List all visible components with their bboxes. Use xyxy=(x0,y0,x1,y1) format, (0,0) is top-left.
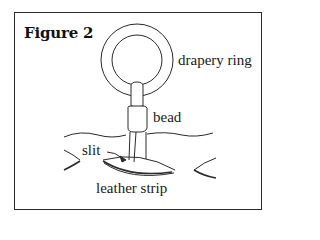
drape-top-line-right xyxy=(147,133,213,136)
ring-band xyxy=(131,82,143,107)
drapery-ring-inner xyxy=(112,35,162,85)
label-drapery-ring: drapery ring xyxy=(178,52,252,69)
bead xyxy=(128,106,147,132)
label-leather-strip: leather strip xyxy=(96,180,167,197)
label-slit: slit xyxy=(82,142,100,159)
drape-top-line xyxy=(64,133,126,137)
left-chevron-bottom xyxy=(64,161,80,170)
leather-strip-bottom xyxy=(103,161,172,174)
leather-strip-top xyxy=(103,157,175,170)
right-chevron-bottom xyxy=(194,170,216,178)
left-chevron-top xyxy=(64,150,80,160)
label-bead: bead xyxy=(153,109,181,126)
right-chevron-top xyxy=(194,158,216,170)
